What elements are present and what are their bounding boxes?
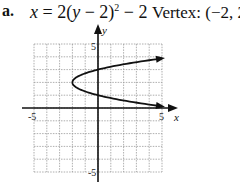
y-axis-label: y xyxy=(101,24,107,36)
y-tick-5: 5 xyxy=(91,41,96,52)
x-axis-label: x xyxy=(173,111,179,123)
graph: x y -5 5 5 -5 xyxy=(0,0,240,188)
x-tick-neg5: -5 xyxy=(28,111,36,122)
y-axis-arrow-icon xyxy=(94,24,102,34)
y-tick-neg5: -5 xyxy=(88,167,96,178)
x-tick-5: 5 xyxy=(159,111,164,122)
curve-arrow-icon xyxy=(156,56,165,63)
